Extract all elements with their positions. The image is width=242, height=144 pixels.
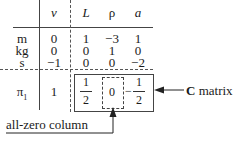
cell-s-nu: −1 (43, 56, 65, 69)
fraction-bar (80, 91, 92, 92)
cell-s-rho: 0 (104, 56, 120, 69)
c-matrix-arrow-icon (153, 85, 185, 95)
c-value-L: 1 2 (78, 76, 94, 107)
row-label-pi1: π1 (10, 85, 34, 104)
cell-pi-nu: 1 (46, 85, 62, 98)
column-header-a: a (130, 6, 146, 19)
numerator: 1 (78, 76, 94, 89)
column-header-rho: ρ (104, 6, 120, 19)
pi-subscript: 1 (23, 93, 27, 102)
c-matrix-label-rest: matrix (195, 83, 232, 98)
row-label-divider (39, 0, 40, 110)
column-header-L: L (78, 6, 94, 19)
c-matrix-label-bold: C (186, 83, 195, 98)
c-matrix-label: C matrix (186, 84, 233, 97)
column-header-nu: ν (46, 6, 62, 19)
cell-s-a: −2 (127, 56, 149, 69)
c-value-a: 1 2 (131, 76, 147, 107)
zero-column-label: all-zero column (6, 118, 88, 131)
fraction-bar (133, 91, 145, 92)
denominator: 2 (131, 94, 147, 107)
dimension-divider (70, 0, 71, 112)
c-value-rho: 0 (104, 86, 120, 99)
numerator: 1 (131, 76, 147, 89)
header-underline (13, 27, 153, 28)
cell-s-L: 0 (78, 56, 94, 69)
row-label-s: s (10, 56, 34, 69)
